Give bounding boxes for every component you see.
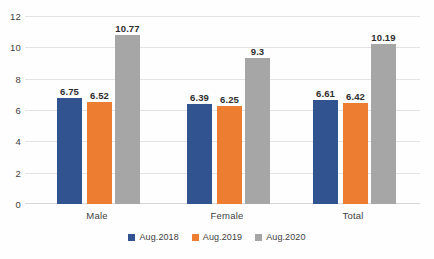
bar-value-label: 10.19 [371,32,395,43]
bar-value-label: 6.42 [346,91,365,102]
y-axis-tick: 2 [16,167,21,178]
bar-group-female: 6.39 6.25 9.3 [187,16,281,204]
bar-value-label: 6.25 [220,94,239,105]
bar-aug2020-female[interactable] [245,58,270,204]
bar-aug2019-female[interactable] [217,106,242,204]
legend-swatch-icon [255,234,262,241]
legend-label: Aug.2019 [203,232,242,242]
bar-aug2020-total[interactable] [371,44,396,204]
bar-value-label: 6.75 [60,86,79,97]
legend-swatch-icon [192,234,199,241]
bar-value-label: 6.39 [190,92,209,103]
bar-aug2020-male[interactable] [115,35,140,204]
legend-label: Aug.2018 [139,232,178,242]
bar-group-male: 6.75 6.52 10.77 [57,16,151,204]
bar-aug2018-total[interactable] [313,100,338,204]
y-axis-tick: 8 [16,73,21,84]
x-axis-label-total: Total [342,210,363,221]
y-axis-tick: 0 [16,199,21,210]
bar-aug2018-male[interactable] [57,98,82,204]
y-axis-tick: 4 [16,136,21,147]
legend: Aug.2018 Aug.2019 Aug.2020 [0,232,434,242]
x-axis-label-female: Female [211,210,244,221]
bar-value-label: 6.52 [90,90,109,101]
y-axis-tick: 12 [10,11,21,22]
bar-chart: 12 10 8 6 4 2 0 6.75 6.52 10.77 [0,0,434,259]
y-axis: 12 10 8 6 4 2 0 [0,16,21,204]
bar-value-label: 9.3 [251,46,265,57]
bar-aug2018-female[interactable] [187,104,212,204]
legend-item-aug2019[interactable]: Aug.2019 [192,232,242,242]
plot-area: 6.75 6.52 10.77 6.39 6.25 9.3 [25,16,420,204]
legend-item-aug2020[interactable]: Aug.2020 [255,232,305,242]
bar-value-label: 6.61 [316,88,335,99]
bar-value-label: 10.77 [115,23,139,34]
x-axis-label-male: Male [86,210,107,221]
bar-aug2019-male[interactable] [87,102,112,204]
y-axis-tick: 10 [10,42,21,53]
bar-aug2019-total[interactable] [343,103,368,204]
legend-item-aug2018[interactable]: Aug.2018 [128,232,178,242]
legend-label: Aug.2020 [266,232,305,242]
legend-swatch-icon [128,234,135,241]
bar-group-total: 6.61 6.42 10.19 [313,16,407,204]
y-axis-tick: 6 [16,105,21,116]
